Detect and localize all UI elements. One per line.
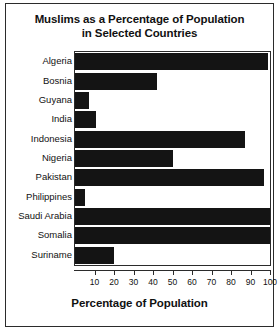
bar [75, 150, 173, 167]
axis-tick [231, 270, 232, 275]
category-label: Saudi Arabia [6, 210, 72, 221]
category-label: Algeria [6, 55, 72, 66]
axis-tick [134, 270, 135, 275]
bar-row [75, 111, 270, 128]
bar [75, 53, 268, 70]
axis-tick [212, 270, 213, 275]
bar [75, 247, 114, 264]
bar [75, 189, 85, 206]
chart-title: Muslims as a Percentage of Population in… [6, 12, 273, 40]
axis-tick [251, 270, 252, 275]
bar [75, 227, 270, 244]
bar-row [75, 208, 270, 225]
axis-tick-label: 100 [258, 277, 280, 288]
category-label: Pakistan [6, 171, 72, 182]
axis-tick [270, 270, 271, 275]
bar-row [75, 189, 270, 206]
bar [75, 208, 270, 225]
axis-tick [153, 270, 154, 275]
category-label: India [6, 113, 72, 124]
value-axis-title: Percentage of Population [6, 297, 273, 309]
category-label: Philippines [6, 191, 72, 202]
bar [75, 73, 157, 90]
bar [75, 131, 245, 148]
category-label: Bosnia [6, 75, 72, 86]
axis-tick [95, 270, 96, 275]
bar-row [75, 53, 270, 70]
axis-tick [192, 270, 193, 275]
bar-row [75, 131, 270, 148]
bar-row [75, 227, 270, 244]
chart-title-line-2: in Selected Countries [6, 26, 273, 40]
bar-row [75, 73, 270, 90]
chart-title-line-1: Muslims as a Percentage of Population [6, 12, 273, 26]
plot-area [74, 51, 271, 266]
value-axis [74, 270, 271, 276]
category-label: Guyana [6, 94, 72, 105]
bar [75, 169, 264, 186]
bar-row [75, 247, 270, 264]
axis-tick [114, 270, 115, 275]
category-axis-labels: AlgeriaBosniaGuyanaIndiaIndonesiaNigeria… [6, 51, 72, 266]
category-label: Nigeria [6, 152, 72, 163]
bar-row [75, 150, 270, 167]
category-label: Somalia [6, 229, 72, 240]
bar-row [75, 169, 270, 186]
category-label: Indonesia [6, 133, 72, 144]
bar [75, 111, 96, 128]
axis-tick [173, 270, 174, 275]
bars-container [75, 52, 270, 265]
bar [75, 92, 89, 109]
category-label: Suriname [6, 249, 72, 260]
value-axis-tick-labels: 102030405060708090100 [74, 277, 271, 289]
chart-frame: Muslims as a Percentage of Population in… [5, 3, 274, 327]
bar-row [75, 92, 270, 109]
